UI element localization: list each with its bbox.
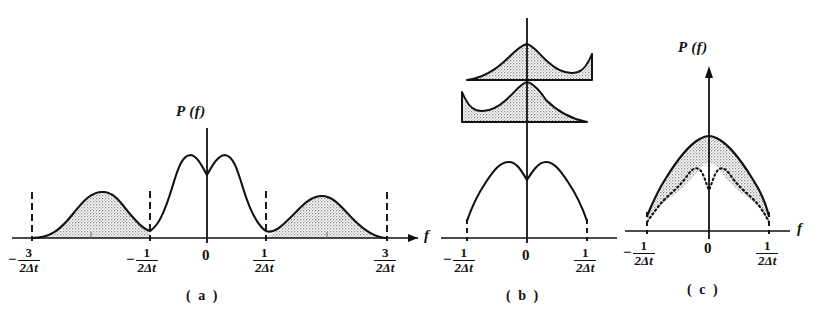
- panel-a-tick-label-zero: 0: [202, 248, 210, 263]
- panel-c-caption: ( c ): [687, 283, 720, 297]
- panel-c-tick-label-zero: 0: [704, 241, 712, 256]
- fraction: 1 2Δt: [574, 246, 596, 276]
- figure-container: P (f) f − 3 2Δt − 1 2Δt 0 1 2Δt 3 2Δt ( …: [0, 0, 819, 323]
- panel-a-caption: ( a ): [186, 289, 219, 303]
- panel-a-tick-label-minus-1-over-2dt: − 1 2Δt: [126, 246, 158, 276]
- panel-b-tick-label-plus-1-over-2dt: 1 2Δt: [574, 246, 596, 276]
- panel-a-x-axis-arrowhead: [408, 234, 418, 242]
- panel-b: [441, 18, 617, 243]
- panel-c-x-axis-label: f: [797, 221, 802, 236]
- fraction: 1 2Δt: [453, 246, 475, 276]
- fraction-numerator: 1: [756, 239, 778, 253]
- panel-c-y-axis-arrowhead: [705, 66, 713, 78]
- panel-a-tick-label-plus-3-over-2dt: 3 2Δt: [374, 246, 396, 276]
- fraction: 1 2Δt: [633, 239, 655, 269]
- fraction-denominator: 2Δt: [633, 253, 655, 269]
- panel-a: [12, 128, 418, 243]
- fraction-denominator: 2Δt: [136, 260, 158, 276]
- fraction-numerator: 1: [253, 246, 275, 260]
- panel-a-y-axis-label: P (f): [176, 104, 206, 119]
- fraction-denominator: 2Δt: [756, 253, 778, 269]
- panel-b-folded-lobe-mid-shape: [462, 82, 587, 122]
- minus-sign: −: [126, 252, 135, 267]
- fraction-denominator: 2Δt: [253, 260, 275, 276]
- fraction: 3 2Δt: [18, 246, 40, 276]
- fraction-numerator: 1: [453, 246, 475, 260]
- fraction-numerator: 3: [374, 246, 396, 260]
- panel-b-folded-lobe-top: [467, 44, 592, 80]
- minus-sign: −: [443, 252, 452, 267]
- panel-b-caption: ( b ): [506, 289, 540, 303]
- minus-sign: −: [8, 252, 17, 267]
- fraction: 1 2Δt: [253, 246, 275, 276]
- panel-a-tick-label-plus-1-over-2dt: 1 2Δt: [253, 246, 275, 276]
- fraction: 1 2Δt: [756, 239, 778, 269]
- fraction-denominator: 2Δt: [18, 260, 40, 276]
- fraction-denominator: 2Δt: [574, 260, 596, 276]
- panel-a-x-axis-label: f: [424, 228, 429, 243]
- panel-c-y-axis-label: P (f): [678, 40, 708, 55]
- fraction-numerator: 1: [136, 246, 158, 260]
- fraction-numerator: 1: [633, 239, 655, 253]
- panel-b-tick-label-zero: 0: [522, 248, 530, 263]
- fraction: 3 2Δt: [374, 246, 396, 276]
- panel-a-tick-label-minus-3-over-2dt: − 3 2Δt: [8, 246, 40, 276]
- fraction-numerator: 3: [18, 246, 40, 260]
- panel-c-tick-label-plus-1-over-2dt: 1 2Δt: [756, 239, 778, 269]
- panel-b-tick-label-minus-1-over-2dt: − 1 2Δt: [443, 246, 475, 276]
- panel-c-tick-label-minus-1-over-2dt: − 1 2Δt: [623, 239, 655, 269]
- panel-c: [625, 66, 790, 239]
- fraction-numerator: 1: [574, 246, 596, 260]
- minus-sign: −: [623, 245, 632, 260]
- fraction-denominator: 2Δt: [374, 260, 396, 276]
- fraction-denominator: 2Δt: [453, 260, 475, 276]
- fraction: 1 2Δt: [136, 246, 158, 276]
